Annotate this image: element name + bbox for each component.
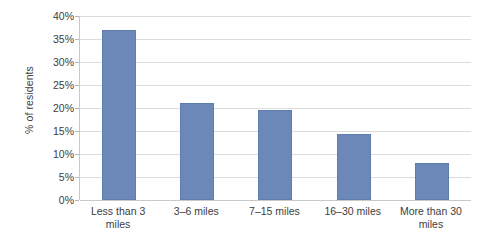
- y-axis-title-text: % of residents: [23, 66, 35, 134]
- y-axis-tick-label: 40%: [38, 10, 74, 22]
- y-axis-tick-label: 30%: [38, 56, 74, 68]
- x-axis-tick-label: More than 30 miles: [392, 205, 470, 231]
- y-axis-tick-label: 15%: [38, 125, 74, 137]
- x-axis-tick-label: 3–6 miles: [157, 205, 235, 218]
- x-axis-tick-label: 7–15 miles: [235, 205, 313, 218]
- bar-slot: [236, 16, 314, 200]
- x-axis-tick-label: Less than 3 miles: [79, 205, 157, 231]
- plot-area: [79, 16, 471, 200]
- y-axis-tick-labels: 0%5%10%15%20%25%30%35%40%: [38, 0, 74, 200]
- bar: [102, 30, 136, 200]
- y-axis-tick-label: 25%: [38, 79, 74, 91]
- y-axis-tick-mark: [75, 85, 79, 86]
- y-axis-tick-label: 20%: [38, 102, 74, 114]
- bars-layer: [80, 16, 471, 200]
- bar-chart-figure: % of residents 0%5%10%15%20%25%30%35%40%…: [0, 0, 483, 241]
- y-axis-tick-mark: [75, 131, 79, 132]
- y-axis-tick-label: 0%: [38, 194, 74, 206]
- y-axis-tick-label: 10%: [38, 148, 74, 160]
- y-axis-title: % of residents: [18, 0, 40, 200]
- gridline: [80, 200, 471, 201]
- bar: [258, 110, 292, 200]
- y-axis-tick-mark: [75, 200, 79, 201]
- bar-slot: [158, 16, 236, 200]
- y-axis-tick-label: 35%: [38, 33, 74, 45]
- y-axis-tick-label: 5%: [38, 171, 74, 183]
- y-axis-tick-mark: [75, 108, 79, 109]
- bar-slot: [393, 16, 471, 200]
- bar: [415, 163, 449, 200]
- y-axis-tick-mark: [75, 16, 79, 17]
- y-axis-tick-mark: [75, 154, 79, 155]
- x-axis-tick-labels: Less than 3 miles3–6 miles7–15 miles16–3…: [79, 205, 470, 241]
- bar-slot: [315, 16, 393, 200]
- y-axis-tick-mark: [75, 177, 79, 178]
- x-axis-tick-label: 16–30 miles: [314, 205, 392, 218]
- y-axis-tick-mark: [75, 62, 79, 63]
- bar: [337, 134, 371, 200]
- bar: [180, 103, 214, 200]
- bar-slot: [80, 16, 158, 200]
- y-axis-tick-mark: [75, 39, 79, 40]
